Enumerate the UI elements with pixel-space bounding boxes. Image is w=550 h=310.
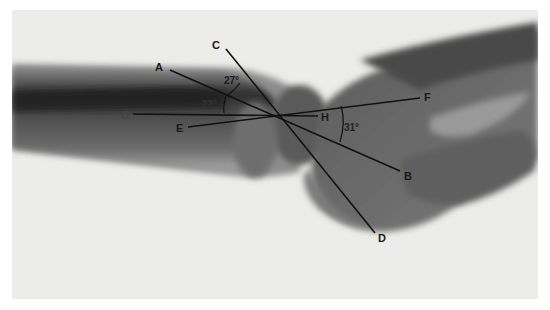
point-label-b: B <box>404 171 412 182</box>
point-label-f: F <box>424 92 431 103</box>
point-label-a: A <box>155 62 163 73</box>
angle-label-31: 31° <box>344 123 359 133</box>
point-label-g: G <box>121 110 130 121</box>
point-label-d: D <box>378 233 386 244</box>
angle-label-27: 27° <box>224 76 239 86</box>
anatomy <box>12 22 538 232</box>
xray-figure: A B C D E F G H 27° 22° 31° <box>0 0 550 310</box>
xray-image <box>0 0 550 310</box>
angle-label-22: 22° <box>202 100 217 110</box>
point-label-e: E <box>176 123 183 134</box>
point-label-c: C <box>212 40 220 51</box>
point-label-h: H <box>321 112 329 123</box>
